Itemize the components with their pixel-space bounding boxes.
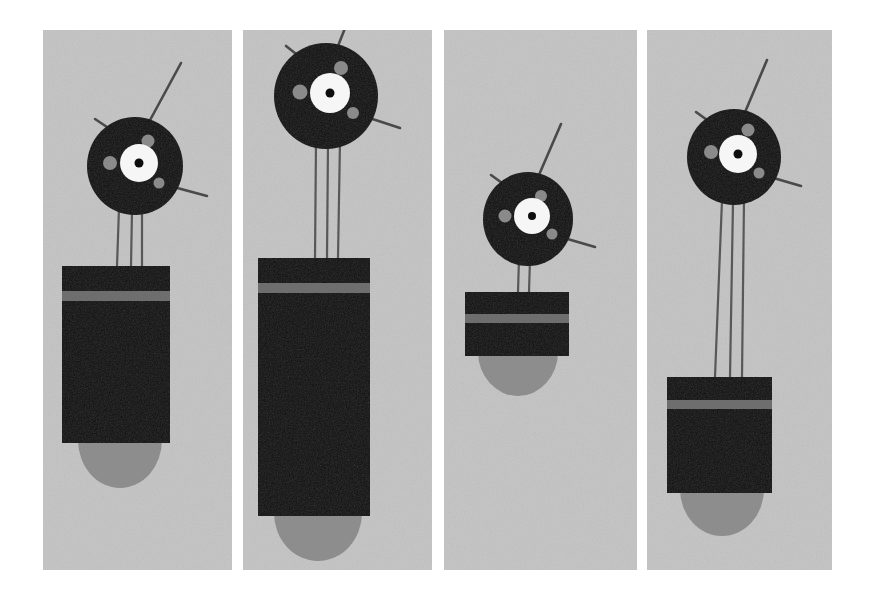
eye-pupil [326, 89, 335, 98]
head-dot-1 [103, 156, 117, 170]
head-dot-3 [547, 229, 558, 240]
panel-3 [444, 30, 637, 570]
figure-body-grain [465, 292, 569, 356]
figure-body-grain [667, 377, 772, 493]
body-band [667, 400, 772, 409]
body-band [465, 314, 569, 323]
scene-svg [0, 0, 875, 603]
eye-pupil [528, 212, 536, 220]
head-dot-3 [154, 178, 165, 189]
head-dot-2 [334, 61, 348, 75]
body-band [62, 291, 170, 301]
panel-1 [43, 30, 232, 570]
head-dot-1 [293, 85, 308, 100]
eye-pupil [734, 150, 743, 159]
body-band [258, 283, 370, 293]
leg-1 [315, 141, 316, 258]
eye-pupil [135, 159, 144, 168]
head-dot-3 [754, 168, 765, 179]
panel-2 [243, 18, 432, 570]
head-dot-2 [742, 124, 755, 137]
head-dot-1 [499, 210, 512, 223]
head-dot-1 [704, 145, 718, 159]
leg-2 [131, 211, 132, 266]
leg-2 [327, 143, 328, 258]
figure-body-grain [258, 258, 370, 516]
panel-4 [647, 30, 832, 570]
head-dot-3 [347, 107, 359, 119]
illustration-canvas [0, 0, 875, 603]
